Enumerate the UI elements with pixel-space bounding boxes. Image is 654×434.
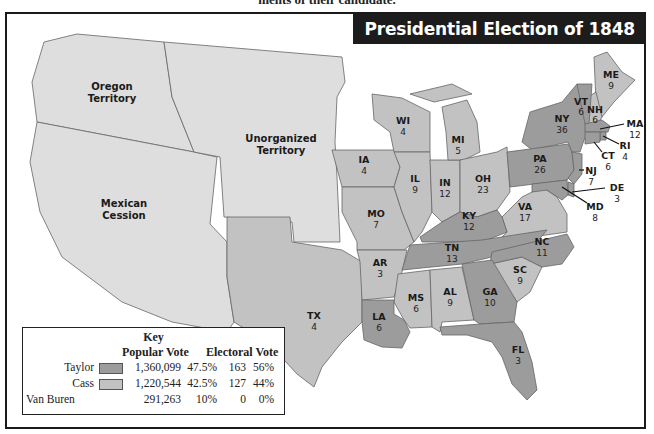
label-NY: NY (555, 113, 570, 124)
label-oregon-territory: Oregon (91, 81, 132, 92)
label-AL: AL (443, 286, 456, 297)
map-frame: Oregon Territory Unorganized Territory M… (5, 12, 646, 429)
key-electoral-pct: 56% (253, 361, 274, 373)
label-IN: IN (439, 177, 451, 188)
key-electoral: 127 (229, 377, 246, 389)
ev-IL: 9 (412, 185, 418, 195)
ev-OH: 23 (477, 185, 488, 195)
label-WI: WI (396, 115, 410, 126)
ev-KY: 12 (463, 222, 474, 232)
key-popular-header: Popular Vote (122, 345, 189, 360)
key-row-taylor: Taylor 1,360,099 47.5% 163 56% (23, 361, 284, 375)
page-caption: ments of their candidate. (0, 0, 654, 8)
label-MD: MD (586, 201, 603, 212)
label-VA: VA (518, 201, 533, 212)
label-DE: DE (610, 182, 624, 193)
label-AR: AR (373, 257, 388, 268)
key-electoral-pct: 0% (259, 393, 274, 405)
key-electoral: 0 (240, 393, 246, 405)
ev-WI: 4 (400, 127, 406, 137)
label-RI: RI (620, 140, 631, 151)
label-GA: GA (482, 286, 498, 297)
ev-FL: 3 (515, 356, 521, 366)
ev-MS: 6 (413, 304, 419, 314)
key-row-van-buren: Van Buren 291,263 10% 0 0% (23, 393, 284, 407)
ev-AL: 9 (447, 298, 453, 308)
ev-MI: 5 (455, 146, 461, 156)
ev-DE: 3 (614, 194, 620, 204)
ev-GA: 10 (484, 298, 496, 308)
label-KY: KY (462, 210, 476, 221)
ev-LA: 6 (376, 323, 382, 333)
map-title: Presidential Election of 1848 (353, 14, 645, 44)
ev-NC: 11 (536, 248, 547, 258)
ev-IA: 4 (361, 166, 367, 176)
ev-RI: 4 (622, 152, 628, 162)
label-NH: NH (587, 104, 603, 115)
legend-key: Key Popular Vote Electoral Vote Taylor 1… (22, 327, 285, 415)
label-SC: SC (513, 264, 527, 275)
label-CT: CT (601, 150, 615, 161)
label-MO: MO (367, 208, 385, 219)
ev-IN: 12 (439, 189, 450, 199)
label-MS: MS (408, 292, 424, 303)
label-mexican-cession-2: Cession (102, 210, 145, 221)
key-row-cass: Cass 1,220,544 42.5% 127 44% (23, 377, 284, 391)
ev-NY: 36 (556, 125, 568, 135)
ev-CT: 6 (605, 162, 611, 172)
ev-SC: 9 (517, 276, 523, 286)
label-FL: FL (512, 344, 525, 355)
label-TX: TX (307, 310, 321, 321)
key-electoral-header: Electoral Vote (206, 345, 278, 360)
label-LA: LA (372, 311, 386, 322)
key-electoral-pct: 44% (253, 377, 274, 389)
label-mexican-cession: Mexican (101, 198, 147, 209)
ev-PA: 26 (534, 165, 546, 175)
key-popular: 291,263 (144, 393, 181, 405)
label-PA: PA (533, 153, 547, 164)
ev-NH: 6 (592, 115, 598, 125)
key-popular: 1,220,544 (135, 377, 181, 389)
ev-MA: 12 (629, 130, 640, 140)
label-unorganized-territory: Unorganized (245, 133, 316, 144)
label-MI: MI (452, 134, 465, 145)
key-candidate: Van Buren (26, 393, 75, 405)
key-popular-pct: 47.5% (187, 361, 217, 373)
ev-MD: 8 (592, 213, 598, 223)
label-oregon-territory-2: Territory (88, 93, 137, 104)
key-popular: 1,360,099 (135, 361, 181, 373)
ev-TN: 13 (446, 254, 457, 264)
ev-ME: 9 (608, 81, 614, 91)
label-MA: MA (627, 118, 644, 129)
taylor-swatch (99, 363, 123, 374)
key-popular-pct: 10% (196, 393, 217, 405)
key-candidate: Cass (72, 377, 94, 389)
key-popular-pct: 42.5% (187, 377, 217, 389)
label-unorganized-territory-2: Territory (257, 145, 306, 156)
key-title: Key (23, 330, 284, 345)
ev-AR: 3 (377, 269, 383, 279)
ev-MO: 7 (373, 220, 379, 230)
label-NJ: NJ (585, 165, 597, 176)
label-IA: IA (359, 154, 371, 165)
ev-NJ: 7 (588, 177, 594, 187)
label-IL: IL (410, 173, 420, 184)
key-candidate: Taylor (64, 361, 94, 373)
label-TN: TN (445, 242, 459, 253)
label-NC: NC (535, 236, 550, 247)
label-OH: OH (475, 173, 491, 184)
ev-VA: 17 (519, 213, 530, 223)
state-shape-FL (440, 322, 537, 400)
key-electoral: 163 (229, 361, 246, 373)
cass-swatch (99, 379, 123, 390)
ev-TX: 4 (311, 322, 317, 332)
ev-VT: 6 (578, 107, 584, 117)
label-ME: ME (603, 69, 619, 80)
state-shape-CT (585, 132, 600, 144)
